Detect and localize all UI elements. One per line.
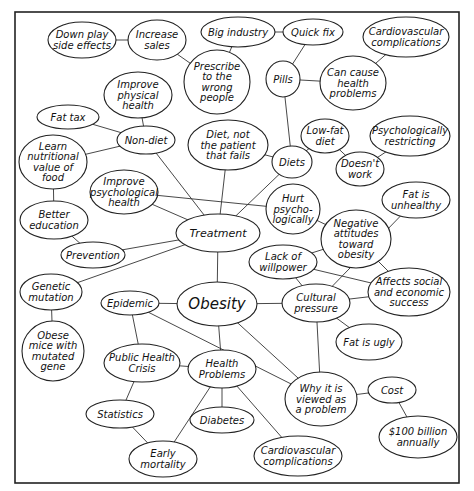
node-label: logically xyxy=(272,214,314,225)
node-label: and economic xyxy=(374,287,445,298)
node-label: food xyxy=(42,172,65,183)
node-label: Affects social xyxy=(375,276,443,287)
node-psych-restricting: Psychologicallyrestricting xyxy=(370,116,450,156)
node-label: Genetic xyxy=(32,281,71,292)
node-label: Why it is xyxy=(299,383,342,394)
node-label: Diabetes xyxy=(200,415,244,426)
node-label: Early xyxy=(150,448,176,459)
node-non-diet: Non-diet xyxy=(117,126,175,154)
node-label: mice with xyxy=(29,340,78,351)
node-health-problems: HealthProblems xyxy=(188,350,256,388)
node-hurt-psych: Hurtpsycho-logically xyxy=(266,184,320,234)
node-label: Increase xyxy=(136,29,179,40)
node-label: mutated xyxy=(32,351,75,362)
node-cost: Cost xyxy=(368,377,416,403)
node-label: nutritional xyxy=(27,151,79,162)
node-label: unhealthy xyxy=(391,200,442,211)
node-label: sales xyxy=(144,40,169,51)
node-label: annually xyxy=(397,437,441,448)
node-label: attitudes xyxy=(334,228,379,239)
node-hundred-billion: $100 billionannually xyxy=(379,416,457,458)
node-label: Pills xyxy=(273,74,293,85)
node-down-play: Down playside effects xyxy=(48,22,116,58)
node-label: Epidemic xyxy=(107,298,153,309)
node-improve-psych: Improvepsychologicalhealth xyxy=(89,170,158,214)
node-label: Diet, not xyxy=(206,129,250,140)
node-label: Cardiovascular xyxy=(261,445,336,456)
node-can-cause: Can causehealthproblems xyxy=(320,56,386,110)
node-early-mortality: Earlymortality xyxy=(129,441,197,477)
node-fat-unhealthy: Fat isunhealthy xyxy=(382,182,450,218)
node-low-fat: Low-fatdiet xyxy=(301,119,349,153)
node-label: obesity xyxy=(338,249,376,260)
node-label: Quick fix xyxy=(291,27,335,38)
node-label: Statistics xyxy=(97,409,143,420)
node-label: psycho- xyxy=(272,204,312,215)
node-label: Better xyxy=(38,209,70,220)
node-affects-social: Affects socialand economicsuccess xyxy=(368,268,450,316)
node-label: Health xyxy=(206,358,239,369)
node-label: Diets xyxy=(279,157,305,168)
node-label: Cultural xyxy=(296,292,336,303)
node-label: Hurt xyxy=(282,193,305,204)
node-label: physical xyxy=(117,90,159,101)
node-label: education xyxy=(29,220,79,231)
node-label: complications xyxy=(263,456,332,467)
node-public-health: Public HealthCrisis xyxy=(104,344,180,382)
node-better-education: Bettereducation xyxy=(20,201,88,239)
node-label: Public Health xyxy=(109,352,175,363)
node-label: Improve xyxy=(103,176,144,187)
node-prescribe: Prescribeto thewrongpeople xyxy=(184,50,250,114)
node-label: Learn xyxy=(39,141,67,152)
node-label: Prevention xyxy=(66,250,120,261)
node-label: a problem xyxy=(296,404,347,415)
node-label: work xyxy=(348,169,373,180)
node-label: Improve xyxy=(117,79,158,90)
node-diet-not-patient: Diet, notthe patientthat fails xyxy=(188,120,268,170)
node-epidemic: Epidemic xyxy=(101,291,159,315)
node-label: restricting xyxy=(384,136,435,147)
node-layer: ObesityTreatmentDown playside effectsInc… xyxy=(19,17,457,477)
node-label: mutation xyxy=(28,292,73,303)
node-label: that fails xyxy=(206,150,250,161)
node-diets: Diets xyxy=(272,146,312,178)
node-cultural-pressure: Culturalpressure xyxy=(282,284,350,322)
node-label: Low-fat xyxy=(306,125,344,136)
node-label: to the xyxy=(202,71,232,82)
node-increase-sales: Increasesales xyxy=(128,20,186,60)
node-label: Non-diet xyxy=(125,135,169,146)
node-label: toward xyxy=(339,239,374,250)
node-label: the patient xyxy=(200,140,256,151)
node-label: Problems xyxy=(199,369,246,380)
node-statistics: Statistics xyxy=(86,400,154,428)
node-cardio-bottom: Cardiovascularcomplications xyxy=(254,436,342,476)
node-quick-fix: Quick fix xyxy=(283,19,343,45)
node-label: Cardiovascular xyxy=(369,26,444,37)
node-label: Big industry xyxy=(208,27,269,38)
node-label: Fat is xyxy=(403,189,430,200)
node-label: problems xyxy=(329,88,377,99)
node-label: Psychologically xyxy=(372,125,449,136)
node-label: $100 billion xyxy=(389,426,448,437)
node-label: health xyxy=(108,197,140,208)
node-label: viewed as xyxy=(296,394,346,405)
node-doesnt-work: Doesn'twork xyxy=(336,152,384,186)
node-label: value of xyxy=(33,162,75,173)
node-obese-mice: Obesemice withmutatedgene xyxy=(22,321,84,381)
node-label: Can cause xyxy=(327,67,379,78)
node-cardio-top: Cardiovascularcomplications xyxy=(363,17,449,57)
node-treatment: Treatment xyxy=(176,214,260,252)
node-genetic-mutation: Geneticmutation xyxy=(20,274,82,310)
node-label: Negative xyxy=(334,218,379,229)
node-label: complications xyxy=(371,37,440,48)
node-lack-willpower: Lack ofwillpower xyxy=(249,245,317,279)
node-fat-tax: Fat tax xyxy=(37,105,99,129)
node-label: Fat tax xyxy=(51,112,86,123)
node-label: pressure xyxy=(293,303,338,314)
node-obesity: Obesity xyxy=(177,282,257,326)
node-label: Cost xyxy=(381,385,404,396)
node-label: wrong xyxy=(201,82,232,93)
node-label: psychological xyxy=(89,187,158,198)
node-learn-nutritional: Learnnutritionalvalue offood xyxy=(19,135,87,189)
node-label: people xyxy=(199,92,234,103)
